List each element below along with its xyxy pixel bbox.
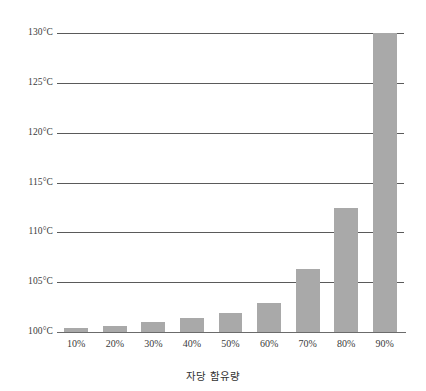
plot-area [57, 33, 404, 332]
x-axis-tick-label: 40% [183, 339, 201, 349]
bar [180, 318, 204, 332]
bar [296, 269, 320, 332]
bar [334, 208, 358, 332]
x-axis-tick-label: 10% [67, 339, 85, 349]
gridline [57, 83, 404, 84]
x-axis-tick-label: 50% [221, 339, 239, 349]
y-axis-tick-label: 115°C [28, 178, 53, 188]
y-axis-tick-label: 130°C [28, 28, 53, 38]
x-axis-tick-label: 80% [337, 339, 355, 349]
x-axis-baseline [57, 332, 406, 333]
gridline [57, 183, 404, 184]
bar [219, 313, 243, 332]
y-axis-tick-labels: 100°C105°C110°C115°C120°C125°C130°C [0, 0, 53, 391]
gridline [57, 133, 404, 134]
x-axis-tick-label: 60% [260, 339, 278, 349]
bar-chart: 100°C105°C110°C115°C120°C125°C130°C 자당 함… [0, 0, 426, 391]
x-axis-tick-label: 70% [298, 339, 316, 349]
bar [257, 303, 281, 332]
bar [373, 33, 397, 332]
x-axis-tick-label: 90% [376, 339, 394, 349]
y-axis-tick-label: 100°C [28, 327, 53, 337]
x-axis-tick-label: 30% [144, 339, 162, 349]
x-axis-tick-label: 20% [106, 339, 124, 349]
y-axis-tick-label: 125°C [28, 78, 53, 88]
y-axis-tick-label: 105°C [28, 277, 53, 287]
y-axis-tick-label: 110°C [28, 228, 53, 238]
y-axis-tick-label: 120°C [28, 128, 53, 138]
x-axis-title: 자당 함유량 [0, 368, 426, 383]
bar [141, 322, 165, 332]
gridline [57, 33, 404, 34]
